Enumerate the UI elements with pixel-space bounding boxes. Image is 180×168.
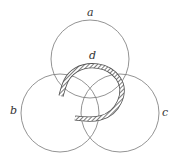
label-d: d xyxy=(89,49,96,62)
label-b: b xyxy=(10,104,17,117)
diagram-canvas: a b c d xyxy=(0,0,180,168)
venn-diagram: a b c d xyxy=(0,0,180,168)
label-a: a xyxy=(87,6,94,19)
circle-b xyxy=(21,74,99,152)
label-c: c xyxy=(162,106,168,119)
